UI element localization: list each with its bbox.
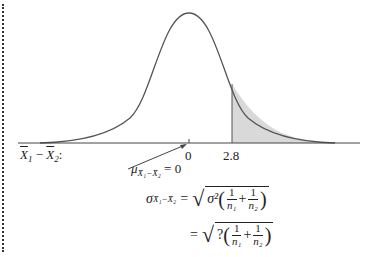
sigma-squared: σ² <box>207 191 218 207</box>
x1-bar: X <box>20 147 28 162</box>
frac1-denominator: n₁ <box>227 200 236 212</box>
left-paren: ( <box>223 225 230 245</box>
std-error-formula-line2: = √ ? ( 1n₁ + 1n₂ ) <box>186 222 273 247</box>
equals-sign: = <box>190 227 198 243</box>
plus-sign: + <box>239 191 247 207</box>
right-paren: ) <box>265 225 272 245</box>
sqrt-content: σ² ( 1n₁ + 1n₂ ) <box>205 186 268 211</box>
left-paren: ( <box>218 189 225 209</box>
minus-sign: − <box>32 147 46 162</box>
frac2-numerator: 1 <box>253 223 263 236</box>
frac2-denominator: n₂ <box>253 236 262 248</box>
frac1-numerator: 1 <box>227 187 237 200</box>
fraction-1-over-n1: 1n₁ <box>227 187 237 211</box>
sigma-subscript: X̄₁−X̄₂ <box>153 194 176 204</box>
bell-curve <box>40 13 335 143</box>
equals-sign: = <box>180 191 188 207</box>
frac1-denominator: n₁ <box>232 236 241 248</box>
fraction-1-over-n2: 1n₂ <box>253 223 263 247</box>
sqrt-content: ? ( 1n₁ + 1n₂ ) <box>215 222 273 247</box>
sqrt-icon: √ <box>192 188 204 210</box>
mu-subscript: X̄₁−X̄₂ <box>138 168 161 178</box>
std-error-formula-line1: σX̄₁−X̄₂ = √ σ² ( 1n₁ + 1n₂ ) <box>146 186 269 211</box>
tick-label-zero: 0 <box>185 148 192 164</box>
frac2-numerator: 1 <box>248 187 258 200</box>
tick-label-2-8: 2.8 <box>223 148 239 164</box>
mean-label: μX̄₁−X̄₂ = 0 <box>131 161 181 178</box>
fraction-1-over-n2: 1n₂ <box>248 187 258 211</box>
colon: : <box>59 147 63 162</box>
shaded-tail-region <box>232 84 335 143</box>
sigma-symbol: σ <box>146 191 153 207</box>
frac2-denominator: n₂ <box>248 200 257 212</box>
fraction-1-over-n1: 1n₁ <box>232 223 242 247</box>
mu-equals: = 0 <box>164 161 181 176</box>
plus-sign: + <box>243 227 251 243</box>
frac1-numerator: 1 <box>232 223 242 236</box>
sqrt-icon: √ <box>202 224 214 246</box>
axis-variable-label: X1 − X2: <box>20 147 62 164</box>
normal-curve-plot <box>0 0 369 257</box>
right-paren: ) <box>260 189 267 209</box>
